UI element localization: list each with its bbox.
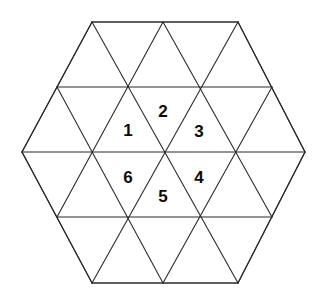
cell-label-2: 2 bbox=[158, 102, 167, 121]
figure-root: 123456 bbox=[0, 0, 328, 303]
cell-label-3: 3 bbox=[194, 122, 203, 141]
hexagon-tiling-svg: 123456 bbox=[0, 0, 328, 303]
cell-label-6: 6 bbox=[123, 168, 132, 187]
cell-label-5: 5 bbox=[158, 187, 167, 206]
cell-label-1: 1 bbox=[123, 121, 132, 140]
cell-label-4: 4 bbox=[194, 168, 204, 187]
